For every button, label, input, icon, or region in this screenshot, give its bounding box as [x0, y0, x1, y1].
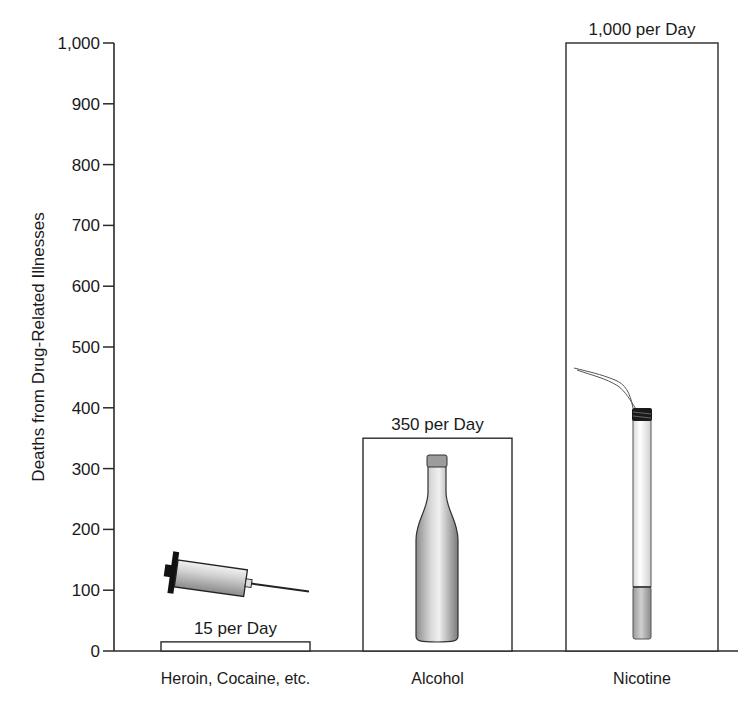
bar-chart: Deaths from Drug-Related Illnesses 01002… — [0, 0, 755, 721]
y-tick-label: 300 — [72, 460, 100, 479]
y-axis-title: Deaths from Drug-Related Illnesses — [29, 212, 48, 481]
category-label: Alcohol — [411, 670, 463, 687]
y-tick-label: 400 — [72, 399, 100, 418]
bar-value-label: 15 per Day — [194, 619, 278, 638]
y-tick-label: 700 — [72, 216, 100, 235]
bar-value-label: 1,000 per Day — [589, 20, 696, 39]
bar-value-label: 350 per Day — [391, 415, 484, 434]
syringe-icon — [161, 550, 311, 612]
bar-heroin: 15 per Day Heroin, Cocaine, etc. — [161, 619, 310, 687]
y-tick-label: 200 — [72, 520, 100, 539]
y-tick-label: 500 — [72, 338, 100, 357]
y-axis: 01002003004005006007008009001,000 — [57, 34, 114, 661]
y-tick-label: 100 — [72, 581, 100, 600]
y-tick-label: 1,000 — [57, 34, 100, 53]
y-tick-label: 800 — [72, 156, 100, 175]
y-tick-label: 600 — [72, 277, 100, 296]
y-tick-label: 0 — [91, 642, 100, 661]
category-label: Heroin, Cocaine, etc. — [161, 670, 310, 687]
y-tick-label: 900 — [72, 95, 100, 114]
category-label: Nicotine — [613, 670, 671, 687]
